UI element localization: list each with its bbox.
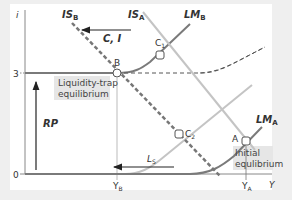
point-b-label: B [114,58,120,68]
ya-tick-label: YA [241,181,253,192]
ci-label: C, I [103,33,122,44]
ls-label: LS [147,154,156,165]
point-a-marker [242,137,250,145]
lm-b-curve [25,24,190,73]
trap-note-line1: Liquidity-trap [58,78,118,88]
x-axis-label: Y [269,180,276,190]
rp-label: RP [43,118,59,129]
trap-note-line2: equilibrium [58,89,109,99]
yb-tick-label: YB [112,181,123,192]
initial-note-line2: equlibrium [235,159,283,169]
point-a-label: A [232,134,239,144]
initial-note-line1: Initial [235,148,260,158]
point-b-marker [113,69,121,77]
is-lm-diagram: i 3 0 Y YB YA ISB ISA LMB LMA C, I RP LS… [0,0,292,200]
point-c1-label: C1 [155,38,165,49]
is-b-label: ISB [62,9,78,22]
point-c2-label: C2 [185,129,195,140]
lm-b-label: LMB [184,9,206,22]
tick-label-3: 3 [13,69,19,79]
is-a-label: ISA [128,9,145,22]
tick-label-0: 0 [13,170,19,180]
lm-a-label: LMA [256,114,278,127]
point-c2-marker [175,130,183,138]
point-c1-marker [156,51,164,59]
y-axis-label: i [16,10,19,20]
lm-dashed-tail [200,47,265,73]
